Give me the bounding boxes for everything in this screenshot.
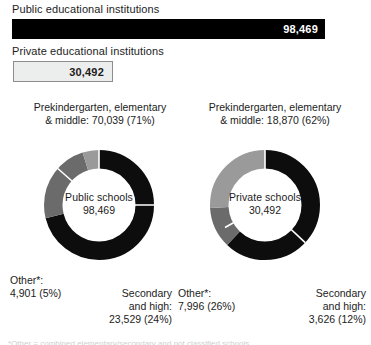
private-secondary-line2: and high: [258,300,366,313]
public-other-line1: Other*: [10,274,61,287]
private-donut-center: Private schools 30,492 [215,191,315,217]
private-donut-center-name: Private schools [215,191,315,204]
private-prek-line1: Prekindergarten, elementary [180,101,370,114]
public-secondary-line3: 23,529 (24%) [60,313,172,326]
public-other-callout: Other*: 4,901 (5%) [10,274,61,300]
private-prek-line2: & middle: 18,870 (62%) [180,114,370,127]
private-other-callout: Other*: 7,996 (26%) [178,287,235,313]
public-bar-label: Public educational institutions [12,3,159,16]
public-secondary-line2: and high: [60,300,172,313]
private-donut-center-value: 30,492 [215,204,315,217]
public-donut-center-name: Public schools [49,191,149,204]
public-other-line2: 4,901 (5%) [10,287,61,300]
private-secondary-callout: Secondary and high: 3,626 (12%) [258,287,366,326]
public-prek-callout: Prekindergarten, elementary & middle: 70… [0,101,200,127]
private-other-line2: 7,996 (26%) [178,300,235,313]
private-bar-value: 30,492 [69,66,112,78]
public-prek-line1: Prekindergarten, elementary [0,101,200,114]
private-schools-donut: Private schools 30,492 [210,150,320,260]
footnote: *Other = combined elementary/secondary a… [8,339,363,345]
public-donut-center-value: 98,469 [49,204,149,217]
public-bar: 98,469 [12,19,325,39]
private-bar: 30,492 [13,61,113,82]
public-schools-donut: Public schools 98,469 [44,150,154,260]
private-secondary-line1: Secondary [258,287,366,300]
chart-page: { "bars": { "public": { "label": "Public… [0,0,371,345]
public-secondary-line1: Secondary [60,287,172,300]
public-prek-line2: & middle: 70,039 (71%) [0,114,200,127]
public-secondary-callout: Secondary and high: 23,529 (24%) [60,287,172,326]
private-other-line1: Other*: [178,287,235,300]
private-secondary-line3: 3,626 (12%) [258,313,366,326]
public-bar-value: 98,469 [283,23,325,35]
private-prek-callout: Prekindergarten, elementary & middle: 18… [180,101,370,127]
private-bar-label: Private educational institutions [12,45,164,58]
public-donut-center: Public schools 98,469 [49,191,149,217]
